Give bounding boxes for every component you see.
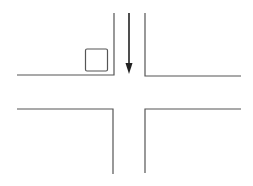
- intersection-diagram: [0, 0, 253, 186]
- arrow-down-icon: [126, 13, 133, 74]
- curb-bottom-right: [145, 109, 241, 173]
- curb-bottom-left: [17, 109, 113, 174]
- box-marker: [86, 49, 108, 71]
- curb-top-left: [17, 13, 114, 75]
- curb-top-right: [145, 13, 241, 76]
